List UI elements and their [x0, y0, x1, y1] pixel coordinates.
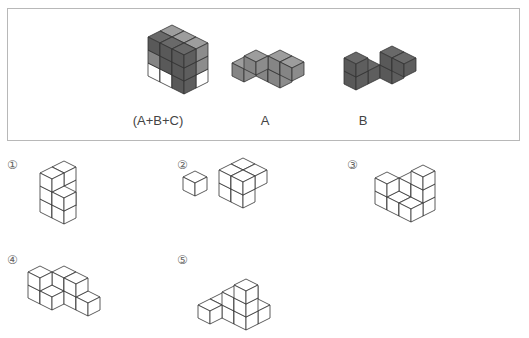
option-number[interactable]: ⑤: [177, 253, 188, 267]
option-number[interactable]: ④: [7, 253, 18, 267]
combined-block-abc: [148, 25, 208, 94]
piece-label: B: [359, 113, 368, 128]
answer-option-5: [198, 279, 270, 330]
piece-label: (A+B+C): [133, 113, 184, 128]
option-number[interactable]: ①: [7, 158, 18, 172]
cube: [183, 171, 207, 196]
answer-option-4: [28, 266, 100, 316]
piece-a: [232, 50, 304, 88]
option-number[interactable]: ②: [177, 158, 188, 172]
answer-option-2: [183, 158, 267, 208]
piece-label: A: [261, 113, 270, 128]
answer-option-3: [375, 165, 435, 222]
piece-b: [344, 46, 416, 90]
answer-option-1: [40, 161, 76, 224]
option-number[interactable]: ③: [347, 158, 358, 172]
puzzle-canvas: [0, 0, 529, 338]
